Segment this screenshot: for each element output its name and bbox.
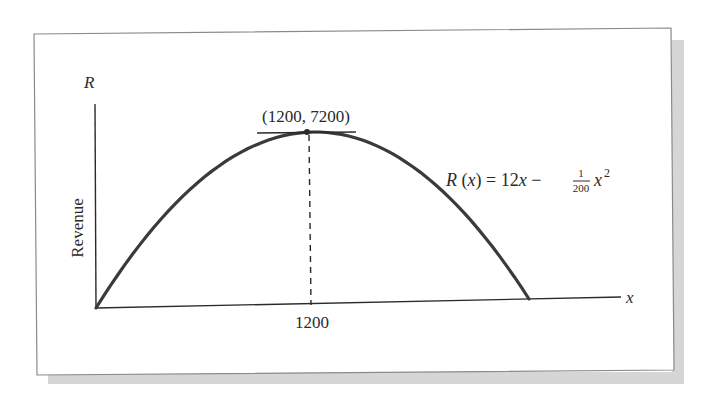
max-point-label: (1200, 7200) bbox=[262, 107, 350, 126]
figure-frame bbox=[34, 28, 674, 375]
y-axis-label: Revenue bbox=[68, 198, 87, 257]
y-axis bbox=[95, 104, 96, 308]
figure: R x Revenue (1200, 7200) 1200 R (x) = 12… bbox=[0, 0, 708, 405]
x-tick-1200: 1200 bbox=[295, 313, 329, 332]
x-axis-symbol: x bbox=[625, 288, 634, 307]
y-axis-symbol: R bbox=[83, 73, 95, 92]
fraction-denominator: 200 bbox=[573, 182, 590, 194]
revenue-diagram: R x Revenue (1200, 7200) 1200 R (x) = 12… bbox=[0, 0, 708, 405]
fraction-numerator: 1 bbox=[578, 167, 584, 179]
equation-lhs: R (x) = 12x − bbox=[445, 170, 541, 191]
max-point bbox=[304, 129, 310, 135]
equation-variable: x bbox=[593, 170, 602, 190]
equation-exponent: 2 bbox=[604, 166, 610, 180]
